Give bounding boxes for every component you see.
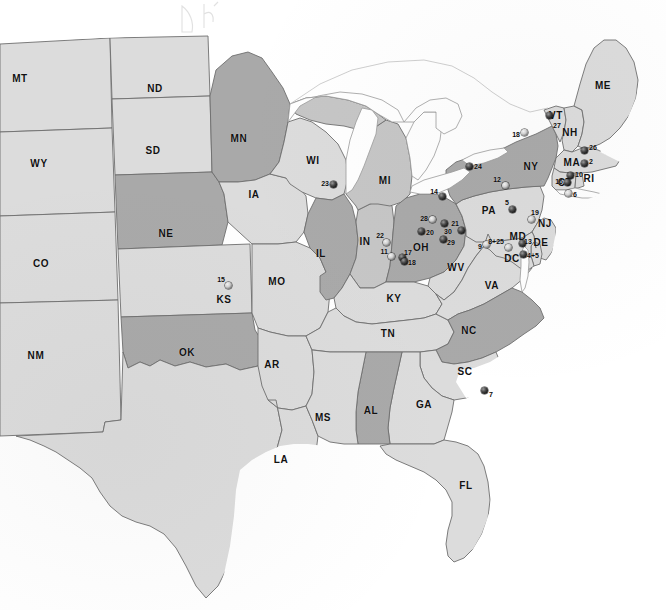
site-marker-14[interactable] <box>439 193 446 200</box>
site-marker-13[interactable] <box>519 240 526 247</box>
site-marker-12[interactable] <box>502 182 509 189</box>
site-marker-16[interactable] <box>564 179 571 186</box>
site-marker-20[interactable] <box>418 228 425 235</box>
site-marker-4+5[interactable] <box>520 251 527 258</box>
site-marker-18s[interactable] <box>401 258 408 265</box>
site-marker-27[interactable] <box>546 112 553 119</box>
site-marker-19[interactable] <box>528 216 535 223</box>
site-marker-5[interactable] <box>509 206 516 213</box>
map-geometry: .st { stroke: #6e6e6e; stroke-width: 0.9… <box>0 0 666 610</box>
site-marker-22[interactable] <box>383 239 390 246</box>
site-marker-23[interactable] <box>330 181 337 188</box>
site-marker-2[interactable] <box>581 160 588 167</box>
site-marker-18n[interactable] <box>521 129 528 136</box>
site-marker-28[interactable] <box>429 216 436 223</box>
site-marker-29[interactable] <box>440 236 447 243</box>
us-location-map: .st { stroke: #6e6e6e; stroke-width: 0.9… <box>0 0 666 610</box>
site-marker-10[interactable] <box>567 172 574 179</box>
site-marker-9[interactable] <box>483 241 490 248</box>
site-marker-26[interactable] <box>581 147 588 154</box>
site-marker-24[interactable] <box>466 163 473 170</box>
site-marker-7[interactable] <box>481 387 488 394</box>
site-marker-21[interactable] <box>458 227 465 234</box>
site-marker-11[interactable] <box>388 253 395 260</box>
site-marker-8+25[interactable] <box>505 244 512 251</box>
site-marker-15[interactable] <box>225 282 232 289</box>
site-marker-6[interactable] <box>565 190 572 197</box>
site-marker-30[interactable] <box>441 220 448 227</box>
